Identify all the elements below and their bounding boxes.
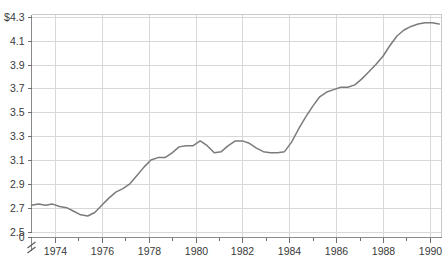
y-tick-label: 3.5 [10, 106, 25, 118]
x-tick-label: 1988 [372, 245, 396, 257]
y-tick-label: 3.3 [10, 130, 25, 142]
y-tick-label: 3.1 [10, 154, 25, 166]
y-tick-label: 2.9 [10, 178, 25, 190]
y-tick-label: 0 [19, 231, 25, 243]
chart-canvas: $4.34.13.93.73.53.33.12.92.72.5019741976… [0, 0, 448, 266]
x-tick-label: 1974 [44, 245, 68, 257]
x-tick-label: 1984 [278, 245, 302, 257]
x-tick-label: 1976 [91, 245, 115, 257]
x-tick-label: 1978 [138, 245, 162, 257]
x-tick-label: 1980 [185, 245, 209, 257]
y-tick-label: $4.3 [4, 11, 25, 23]
x-tick-label: 1990 [419, 245, 443, 257]
series-line-0 [32, 23, 440, 216]
line-chart: $4.34.13.93.73.53.33.12.92.72.5019741976… [0, 0, 448, 266]
y-tick-label: 4.1 [10, 35, 25, 47]
x-tick-label: 1982 [231, 245, 255, 257]
y-tick-label: 2.7 [10, 202, 25, 214]
y-tick-label: 3.9 [10, 59, 25, 71]
y-tick-label: 3.7 [10, 82, 25, 94]
x-tick-label: 1986 [325, 245, 349, 257]
